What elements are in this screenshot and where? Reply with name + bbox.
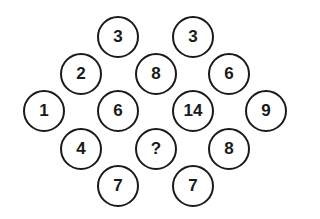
circle-label: 7 — [188, 176, 197, 196]
circle-row2-left: 2 — [60, 53, 102, 95]
circle-row3-4: 9 — [245, 90, 287, 132]
circle-bottom-left: 7 — [97, 165, 139, 207]
circle-row4-left: 4 — [60, 128, 102, 170]
circle-label: 8 — [151, 64, 160, 84]
circle-row4-right: 8 — [208, 128, 250, 170]
circle-row3-2: 6 — [97, 90, 139, 132]
circle-label: 9 — [261, 101, 270, 121]
circle-unknown: ? — [135, 128, 177, 170]
circle-label: 7 — [113, 176, 122, 196]
circle-row3-1: 1 — [23, 90, 65, 132]
circle-bottom-right: 7 — [172, 165, 214, 207]
circle-label: 2 — [76, 64, 85, 84]
circle-row2-center: 8 — [135, 53, 177, 95]
circle-label: 8 — [224, 139, 233, 159]
circle-label: ? — [151, 139, 161, 159]
circle-label: 6 — [224, 64, 233, 84]
circle-label: 14 — [184, 101, 203, 121]
circle-label: 3 — [188, 27, 197, 47]
circle-label: 6 — [113, 101, 122, 121]
circle-label: 4 — [76, 139, 85, 159]
circle-top-right: 3 — [172, 16, 214, 58]
circle-top-left: 3 — [97, 16, 139, 58]
circle-label: 3 — [113, 27, 122, 47]
circle-label: 1 — [39, 101, 48, 121]
circle-row3-3: 14 — [172, 90, 214, 132]
circle-row2-right: 6 — [208, 53, 250, 95]
